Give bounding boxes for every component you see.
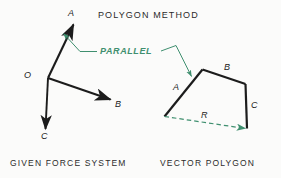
force-vector-a [48,25,74,79]
parallel-label: PARALLEL [100,46,152,56]
origin-label-o: O [24,70,31,80]
resultant-label-r: R [201,110,208,120]
polygon-label-a: A [173,82,179,92]
polygon-label-c: C [251,100,258,110]
polygon-method-figure: POLYGON METHOD PARALLEL A B C O A B C R … [0,0,281,178]
caption-vector-polygon: VECTOR POLYGON [160,158,255,168]
force-label-a: A [68,8,74,18]
parallel-leader-right [161,46,192,77]
force-label-c: C [41,131,48,141]
polygon-side-c [246,84,248,129]
caption-given-force-system: GIVEN FORCE SYSTEM [10,158,127,168]
figure-canvas [0,0,281,178]
polygon-side-a [165,70,203,117]
figure-title: POLYGON METHOD [98,10,199,20]
force-vector-c [46,78,49,129]
given-force-system-diagram [46,25,111,130]
polygon-label-b: B [224,62,230,72]
force-vector-b [48,78,111,100]
force-label-b: B [115,99,121,109]
